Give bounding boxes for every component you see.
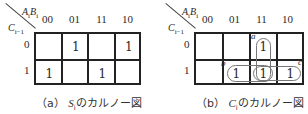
row-header: 0 (184, 38, 190, 50)
karnaugh-map-c: AiBi Ci−1 00 01 11 10 0 1 1 1 1 1 a b c … (160, 0, 308, 114)
col-header: 11 (248, 13, 275, 25)
kmap-grid: 1 1 1 1 a b c (194, 32, 304, 85)
kmap-cell (89, 34, 116, 61)
kmap-cell (116, 61, 143, 88)
kmap-grid: 1 1 1 1 (34, 32, 141, 85)
row-header: 1 (24, 64, 30, 76)
kmap-cell (63, 61, 90, 88)
col-header: 10 (114, 13, 141, 25)
loop-label-c: c (298, 57, 302, 67)
row-variable-label: Ci−1 (168, 22, 184, 36)
kmap-cell: 1 (89, 61, 116, 88)
row-header: 1 (184, 64, 190, 76)
kmap-cell: 1 (63, 34, 90, 61)
karnaugh-map-s: AiBi Ci−1 00 01 11 10 0 1 1 1 1 1 （a） Si… (0, 0, 154, 114)
col-header: 01 (221, 13, 248, 25)
caption: （b） Ciのカルノー図 (196, 94, 304, 112)
col-header: 00 (34, 13, 61, 25)
kmap-cell (36, 34, 63, 61)
col-header: 10 (274, 13, 301, 25)
loop-label-a: a (251, 31, 256, 41)
kmap-cell: 1 (116, 34, 143, 61)
kmap-cell (223, 34, 250, 61)
kmap-cell (196, 61, 223, 88)
caption: （a） Siのカルノー図 (36, 94, 142, 112)
row-variable-label: Ci−1 (8, 22, 24, 36)
row-header: 0 (24, 38, 30, 50)
kmap-cell: 1 (36, 61, 63, 88)
col-header: 11 (88, 13, 115, 25)
loop-c (253, 66, 301, 81)
loop-label-b: b (221, 58, 226, 68)
col-header: 00 (194, 13, 221, 25)
kmap-cell (196, 34, 223, 61)
col-header: 01 (61, 13, 88, 25)
